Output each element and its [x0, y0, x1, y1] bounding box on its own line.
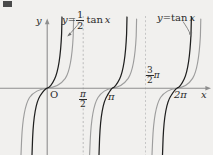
annotation-half-tan-denominator: 2: [76, 20, 84, 31]
y-axis-label: y: [36, 16, 42, 26]
annotation-half-tan-argument: x: [105, 14, 111, 25]
tick-label-2pi: 2π: [174, 90, 187, 100]
annotation-half-tan-function: tan: [86, 14, 102, 25]
curve-half-tan: [21, 19, 201, 155]
annotation-half-tan-numerator: 1: [76, 10, 84, 20]
annotation-tan-function: tan: [171, 12, 187, 23]
origin-label: O: [50, 90, 58, 100]
leader-arrow-tan: [183, 22, 191, 36]
annotation-tan-argument: x: [189, 12, 195, 23]
annotation-half-tan: y= 1 2 tanx: [62, 10, 110, 31]
tick-3pi-over-2-numerator: 3: [146, 66, 154, 75]
annotation-half-tan-equals: =: [68, 14, 76, 25]
tick-3pi-over-2-denominator: 2: [146, 75, 154, 85]
y-axis-arrowhead: [45, 19, 50, 25]
tick-label-pi-over-2: π 2: [79, 90, 87, 109]
annotation-tan-equals: =: [163, 12, 171, 23]
annotation-tan: y=tanx: [157, 13, 195, 23]
tick-pi-over-2-denominator: 2: [79, 99, 87, 109]
tick-pi-over-2-numerator: π: [79, 90, 87, 99]
tick-3pi-over-2-suffix: π: [154, 70, 160, 80]
x-axis-label: x: [201, 90, 207, 100]
tick-label-3pi-over-2: 3 2 π: [146, 66, 160, 85]
tick-label-pi: π: [108, 92, 115, 102]
